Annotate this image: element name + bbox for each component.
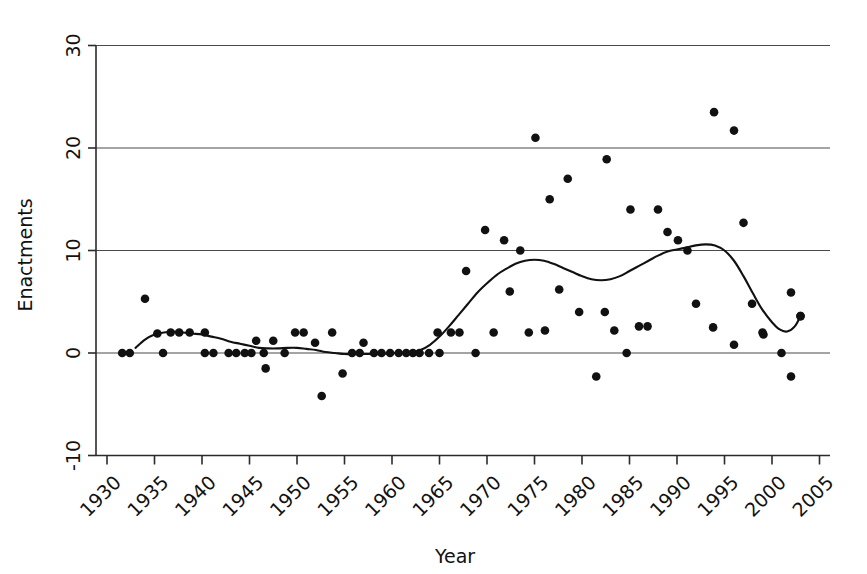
x-axis-title: Year [434, 545, 475, 567]
data-point [654, 205, 663, 214]
data-point [602, 155, 611, 164]
y-tick-label-20: 20 [62, 136, 84, 160]
x-tick-label-1995: 1995 [693, 471, 743, 521]
data-point [709, 323, 718, 332]
x-tick-label-1950: 1950 [265, 471, 315, 521]
trend-end-point [796, 312, 805, 321]
trend-line-path [136, 244, 801, 354]
data-point [252, 336, 261, 345]
x-tick-label-1930: 1930 [75, 471, 125, 521]
data-point [209, 349, 218, 358]
data-point [425, 349, 434, 358]
data-point [575, 308, 584, 317]
data-point [328, 328, 337, 337]
data-point [201, 349, 210, 358]
x-tick-label-1955: 1955 [313, 471, 363, 521]
data-point [232, 349, 241, 358]
data-point [787, 288, 796, 297]
x-tick-label-1945: 1945 [218, 471, 268, 521]
data-point [635, 322, 644, 331]
data-point [787, 372, 796, 381]
y-tick-label-0: 0 [62, 347, 84, 359]
data-point [610, 326, 619, 335]
data-point [710, 108, 719, 117]
data-point [730, 126, 739, 135]
data-point [291, 328, 300, 337]
data-point [299, 328, 308, 337]
y-tick-labels-group: -100102030 [62, 33, 84, 471]
data-point [447, 328, 456, 337]
data-point [545, 195, 554, 204]
data-point [663, 228, 672, 237]
data-point [489, 328, 498, 337]
data-point [359, 338, 368, 347]
x-tick-label-1960: 1960 [360, 471, 410, 521]
data-points-group [118, 108, 805, 401]
data-point [269, 336, 278, 345]
data-point [471, 349, 480, 358]
x-tick-label-1935: 1935 [123, 471, 173, 521]
x-tick-label-1980: 1980 [550, 471, 600, 521]
data-point [692, 300, 701, 309]
x-tick-label-1975: 1975 [503, 471, 553, 521]
trend-line-group [136, 244, 805, 354]
data-point [541, 326, 550, 335]
data-point [159, 349, 168, 358]
scatter-plot-canvas: -100102030 19301935194019451950195519601… [0, 0, 867, 574]
data-point [455, 328, 464, 337]
data-point [462, 267, 471, 276]
data-point [563, 174, 572, 183]
data-point [338, 369, 347, 378]
x-tick-label-1940: 1940 [170, 471, 220, 521]
y-tick-marks-group [88, 46, 96, 456]
data-point [531, 133, 540, 142]
data-point [643, 322, 652, 331]
data-point [311, 338, 320, 347]
data-point [126, 349, 135, 358]
y-tick-label-10: 10 [62, 238, 84, 262]
x-tick-label-2000: 2000 [740, 471, 790, 521]
data-point [601, 308, 610, 317]
data-point [141, 294, 150, 303]
data-point [259, 349, 268, 358]
data-point [506, 287, 515, 296]
data-point [739, 219, 748, 228]
chart-figure: -100102030 19301935194019451950195519601… [0, 0, 867, 574]
data-point [525, 328, 534, 337]
x-tick-label-1965: 1965 [408, 471, 458, 521]
data-point [247, 349, 256, 358]
x-tick-label-2005: 2005 [788, 471, 838, 521]
data-point [748, 300, 757, 309]
x-tick-label-1990: 1990 [645, 471, 695, 521]
data-point [730, 341, 739, 350]
data-point [674, 236, 683, 245]
gridlines-group [96, 46, 830, 354]
data-point [224, 349, 233, 358]
data-point [481, 226, 490, 235]
data-point [317, 392, 326, 401]
data-point [759, 330, 768, 339]
x-tick-marks-group [107, 456, 820, 465]
data-point [555, 285, 564, 294]
y-tick-label-30: 30 [62, 33, 84, 57]
data-point [261, 364, 270, 373]
x-tick-labels-group: 1930193519401945195019551960196519701975… [75, 471, 837, 521]
data-point [500, 236, 509, 245]
y-tick-label--10: -10 [62, 440, 84, 471]
data-point [622, 349, 631, 358]
data-point [516, 246, 525, 255]
data-point [435, 349, 444, 358]
data-point [118, 349, 127, 358]
data-point [777, 349, 786, 358]
data-point [280, 349, 289, 358]
x-tick-label-1985: 1985 [598, 471, 648, 521]
data-point [592, 372, 601, 381]
data-point [626, 205, 635, 214]
x-tick-label-1970: 1970 [455, 471, 505, 521]
y-axis-title: Enactments [14, 198, 36, 311]
